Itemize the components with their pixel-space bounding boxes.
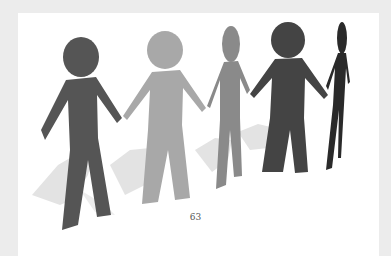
figure-4 [250,22,328,173]
page-number: 63 [0,212,391,222]
figure-5 [326,22,350,170]
